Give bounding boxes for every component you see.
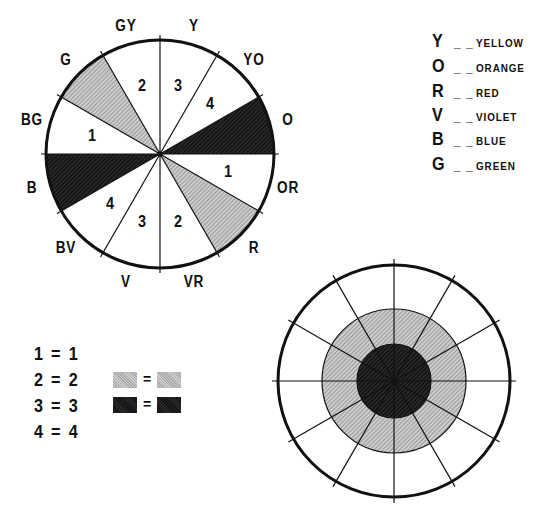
segment-label-r: R [249,239,260,257]
segment-label-o: O [283,111,294,129]
segment-number: 2 [174,212,182,232]
legend-item-violet: V _ _ VIOLET [432,104,522,126]
target-wheel [272,259,516,503]
legend-name: VIOLET [476,111,517,123]
equals-sign: = [143,371,151,387]
equals-sign: = [143,396,151,412]
legend-item-orange: O _ _ ORANGE [432,55,530,77]
legend-letter: Y [432,30,451,52]
legend-dash: _ _ [454,159,476,173]
segment-number: 3 [138,212,146,232]
gray-swatch [157,372,181,388]
segment-number: 1 [88,126,96,146]
segment-label-bg: BG [20,111,42,129]
segment-number: 4 [106,194,114,214]
segment-number: 1 [224,162,232,182]
legend-dash: _ _ [454,134,476,148]
legend-dash: _ _ [454,110,476,124]
legend-item-blue: B _ _ BLUE [432,128,510,150]
segment-label-y: Y [189,17,199,35]
legend-dash: _ _ [454,36,476,50]
segment-label-yo: YO [243,51,264,69]
segment-label-g: G [60,51,71,69]
segment-number: 2 [138,76,146,96]
legend-name: YELLOW [476,37,524,49]
segment-number: 4 [206,94,214,114]
segment-label-b: B [26,179,37,197]
equivalence-3: 3 = 3 [34,396,78,417]
gray-swatch [113,372,137,388]
legend-name: BLUE [476,135,507,147]
legend-dash: _ _ [454,61,476,75]
color-wheel [41,35,279,273]
legend-item-green: G _ _ GREEN [432,153,520,175]
legend-dash: _ _ [454,86,476,100]
legend-letter: R [432,80,451,102]
segment-number: 3 [174,76,182,96]
legend-name: RED [476,87,500,99]
segment-label-bv: BV [56,239,77,257]
dark-swatch [157,397,181,413]
legend-name: ORANGE [476,62,525,74]
legend-letter: V [432,104,451,126]
legend-letter: B [432,128,451,150]
dark-swatch [113,397,137,413]
legend-item-red: R _ _ RED [432,80,502,102]
segment-label-v: V [121,273,131,291]
segment-label-vr: VR [184,273,205,291]
legend-name: GREEN [476,160,516,172]
equivalence-2: 2 = 2 [34,370,78,391]
legend-item-yellow: Y _ _ YELLOW [432,30,529,52]
equivalence-1: 1 = 1 [34,344,78,365]
legend-letter: G [432,153,451,175]
wheel-center [158,152,163,157]
segment-label-gy: GY [115,17,136,35]
segment-label-or: OR [277,179,299,197]
legend-letter: O [432,55,451,77]
equivalence-4: 4 = 4 [34,422,78,443]
